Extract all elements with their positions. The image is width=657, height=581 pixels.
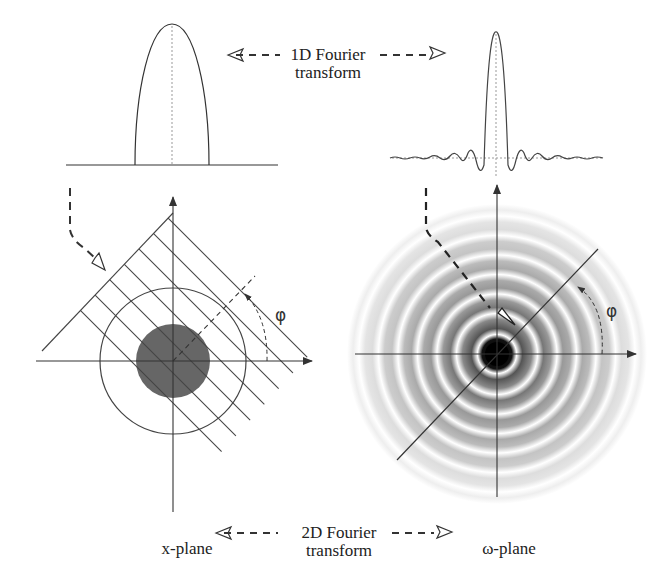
sinc-plot [390, 32, 603, 178]
right-open-arrowhead-icon [430, 47, 445, 59]
omega-plane-label: ω-plane [482, 539, 536, 558]
angle-arc [245, 294, 267, 361]
profile-plot [66, 24, 278, 165]
sinc-curve [390, 32, 603, 170]
x-plane-label: x-plane [162, 539, 213, 558]
angle-phi-left: φ [275, 305, 286, 325]
right-open-arrowhead-icon-bottom [437, 526, 452, 538]
angle-phi-right: φ [606, 301, 617, 321]
bottom-label-line2: transform [306, 541, 372, 560]
bottom-transform-label: x-plane 2D Fourier transform ω-plane [162, 523, 536, 560]
profile-to-plane-arrow [70, 188, 95, 258]
fourier-slice-diagram: 1D Fourier transform [0, 0, 657, 581]
open-arrowhead-icon [92, 253, 105, 270]
top-transform-label: 1D Fourier transform [228, 45, 445, 82]
omega-plane: φ [347, 185, 647, 504]
bottom-label-line1: 2D Fourier [301, 523, 376, 542]
top-label-line1: 1D Fourier [290, 45, 365, 64]
top-label-line2: transform [295, 63, 361, 82]
